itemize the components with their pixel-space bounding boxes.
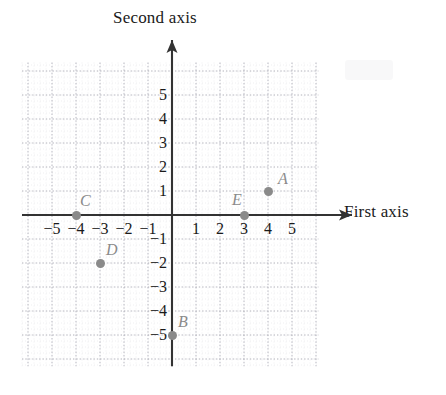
y-tick-label: −3: [145, 279, 167, 295]
plot-point-d: [96, 259, 105, 268]
x-tick-label: 1: [185, 221, 207, 237]
x-tick-label: 3: [233, 221, 255, 237]
y-tick-label: 1: [145, 183, 167, 199]
x-tick-label: 2: [209, 221, 231, 237]
y-tick-label: −2: [145, 255, 167, 271]
plot-point-label-c: C: [80, 193, 91, 209]
y-tick-label: 4: [145, 111, 167, 127]
x-tick-label: 5: [281, 221, 303, 237]
plot-point-label-d: D: [106, 242, 118, 258]
coordinate-plane-figure: Second axis First axis −5−4−3−2−11234554…: [0, 0, 446, 395]
y-tick-label: 5: [145, 87, 167, 103]
plot-point-a: [264, 187, 273, 196]
grid-and-axes: [0, 0, 446, 395]
x-tick-label: 4: [257, 221, 279, 237]
y-tick-label: 3: [145, 135, 167, 151]
plot-point-label-b: B: [178, 314, 188, 330]
y-tick-label: −4: [145, 303, 167, 319]
y-tick-label: 2: [145, 159, 167, 175]
plot-point-e: [240, 211, 249, 220]
x-tick-label: −2: [113, 221, 135, 237]
plot-point-b: [168, 331, 177, 340]
x-tick-label: −5: [41, 221, 63, 237]
plot-point-c: [72, 211, 81, 220]
x-tick-label: −3: [89, 221, 111, 237]
x-tick-label: −4: [65, 221, 87, 237]
y-tick-label: −5: [145, 327, 167, 343]
plot-point-label-a: A: [278, 171, 288, 187]
y-tick-label: −1: [145, 231, 167, 247]
plot-point-label-e: E: [232, 192, 242, 208]
